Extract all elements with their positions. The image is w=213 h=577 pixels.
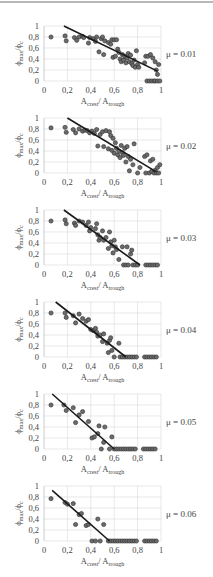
x-tick-label: 0,2 xyxy=(62,361,73,371)
y-tick-label: 1 xyxy=(35,297,39,307)
data-point xyxy=(81,410,85,414)
y-tick-label: 0,6 xyxy=(28,503,39,513)
y-tick-label: 0,2 xyxy=(28,341,39,351)
x-tick-label: 0,4 xyxy=(85,361,96,371)
y-tick-label: 0,2 xyxy=(28,433,39,443)
x-tick-label: 0,4 xyxy=(85,453,96,463)
data-point xyxy=(113,141,117,145)
data-point xyxy=(95,35,99,39)
chart-panel-3: 00,20,40,60,8100,20,40,60,81Acrest/ Atro… xyxy=(13,205,197,291)
data-point xyxy=(100,229,104,233)
data-point xyxy=(106,246,110,250)
trend-line xyxy=(64,210,140,265)
data-point xyxy=(111,251,115,255)
y-tick-label: 0,8 xyxy=(28,124,39,134)
data-point xyxy=(154,355,158,359)
x-tick-label: 0 xyxy=(42,269,46,279)
x-axis-label: Acrest/ Atrough xyxy=(81,464,124,475)
y-tick-label: 0 xyxy=(35,168,39,178)
data-point xyxy=(73,421,77,425)
data-point xyxy=(73,131,77,135)
y-tick-label: 0,4 xyxy=(28,54,39,64)
y-tick-label: 0,8 xyxy=(28,216,39,226)
data-point xyxy=(130,248,134,252)
trend-line xyxy=(52,490,109,541)
data-point xyxy=(49,497,53,501)
data-point xyxy=(111,136,115,140)
data-point xyxy=(49,311,53,315)
y-tick-label: 0,2 xyxy=(28,65,39,75)
x-tick-label: 0 xyxy=(42,453,46,463)
data-point xyxy=(102,522,106,526)
data-point xyxy=(114,38,118,42)
trend-line xyxy=(67,118,156,172)
y-tick-label: 0,6 xyxy=(28,411,39,421)
x-tick-label: 0 xyxy=(42,545,46,555)
data-point xyxy=(100,35,104,39)
data-point xyxy=(64,315,68,319)
mu-label: μ = 0.01 xyxy=(166,49,196,59)
y-tick-label: 0 xyxy=(35,352,39,362)
x-tick-label: 1 xyxy=(159,85,163,95)
data-point xyxy=(49,126,53,130)
data-point xyxy=(92,435,96,439)
mu-label: μ = 0.04 xyxy=(166,325,197,335)
chart-panel-5: 00,20,40,60,8100,20,40,60,81Acrest/ Atro… xyxy=(13,389,197,475)
data-point xyxy=(131,163,135,167)
x-tick-label: 1 xyxy=(159,177,163,187)
x-tick-label: 1 xyxy=(159,269,163,279)
data-point xyxy=(107,230,111,234)
chart-panel-6: 00,20,40,60,8100,20,40,60,81Acrest/ Atro… xyxy=(13,481,197,567)
chart-panel-4: 00,20,40,60,8100,20,40,60,81Acrest/ Atro… xyxy=(13,297,197,383)
y-tick-label: 0,4 xyxy=(28,238,39,248)
y-tick-label: 0 xyxy=(35,76,39,86)
x-tick-label: 0,8 xyxy=(132,177,143,187)
x-tick-label: 1 xyxy=(159,453,163,463)
data-point xyxy=(119,143,123,147)
mu-label: μ = 0.05 xyxy=(166,417,197,427)
x-tick-label: 1 xyxy=(159,545,163,555)
data-point xyxy=(113,54,117,58)
data-point xyxy=(154,539,158,543)
trend-line xyxy=(64,26,158,71)
data-point xyxy=(127,169,131,173)
data-point xyxy=(102,332,106,336)
data-point xyxy=(153,60,157,64)
y-axis-label: ϕmax/ϕc xyxy=(13,317,24,342)
x-tick-label: 0,2 xyxy=(62,545,73,555)
x-axis-label: Acrest/ Atrough xyxy=(81,188,124,199)
x-tick-label: 0,6 xyxy=(109,453,120,463)
y-axis-label: ϕmax/ϕc xyxy=(13,225,24,250)
data-point xyxy=(133,447,137,451)
data-point xyxy=(49,219,53,223)
x-tick-label: 0 xyxy=(42,361,46,371)
data-point xyxy=(98,539,102,543)
data-point xyxy=(64,39,68,43)
data-point xyxy=(71,406,75,410)
y-axis-label: ϕmax/ϕc xyxy=(13,409,24,434)
data-point xyxy=(93,227,97,231)
data-point xyxy=(158,79,162,83)
y-tick-label: 0,4 xyxy=(28,146,39,156)
x-tick-label: 0,8 xyxy=(132,269,143,279)
y-tick-label: 0,6 xyxy=(28,135,39,145)
y-tick-label: 0 xyxy=(35,260,39,270)
x-tick-label: 0,8 xyxy=(132,361,143,371)
y-tick-label: 0,8 xyxy=(28,308,39,318)
data-point xyxy=(157,62,161,66)
data-point xyxy=(86,318,90,322)
data-point xyxy=(95,222,99,226)
x-tick-label: 0,4 xyxy=(85,269,96,279)
data-point xyxy=(73,223,77,227)
x-axis-label: Acrest/ Atrough xyxy=(81,372,124,383)
mu-label: μ = 0.02 xyxy=(166,141,196,151)
y-tick-label: 0,6 xyxy=(28,43,39,53)
data-point xyxy=(151,157,155,161)
y-tick-label: 0,6 xyxy=(28,227,39,237)
y-tick-label: 0,8 xyxy=(28,492,39,502)
data-point xyxy=(73,522,77,526)
data-point xyxy=(120,245,124,249)
x-axis-label: Acrest/ Atrough xyxy=(81,96,124,107)
data-point xyxy=(99,447,103,451)
data-point xyxy=(109,336,113,340)
